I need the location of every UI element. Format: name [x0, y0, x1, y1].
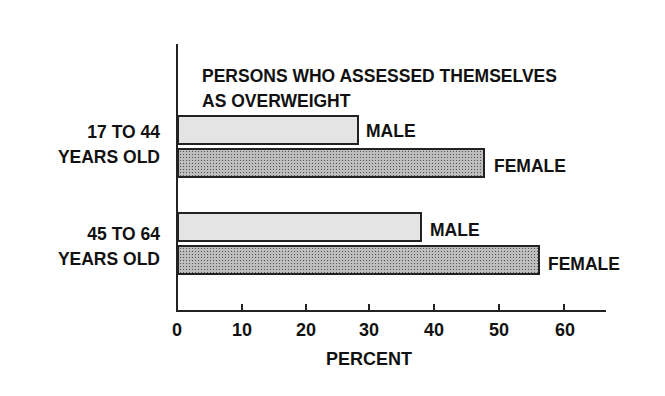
x-tick-label: 40 — [414, 320, 454, 341]
category-label-45-64: 45 TO 64 YEARS OLD — [0, 222, 160, 272]
chart-title: PERSONS WHO ASSESSED THEMSELVES AS OVERW… — [202, 64, 557, 114]
bar-label-female: FEMALE — [548, 254, 620, 275]
x-tick-label: 50 — [479, 320, 519, 341]
bar-label-male: MALE — [366, 121, 416, 142]
x-tick — [368, 304, 370, 310]
category-line: YEARS OLD — [0, 145, 160, 170]
bar-male-45-64 — [177, 212, 422, 242]
x-axis-label: PERCENT — [326, 349, 412, 370]
bar-label-female: FEMALE — [494, 156, 566, 177]
bar-male-17-44 — [177, 115, 359, 145]
x-tick-label: 60 — [545, 320, 585, 341]
x-tick-label: 30 — [349, 320, 389, 341]
x-tick — [305, 304, 307, 310]
title-line-1: PERSONS WHO ASSESSED THEMSELVES — [202, 64, 557, 89]
x-tick-label: 10 — [222, 320, 262, 341]
title-line-2: AS OVERWEIGHT — [202, 89, 557, 114]
x-axis — [176, 310, 606, 312]
bar-label-male: MALE — [430, 220, 480, 241]
category-line: YEARS OLD — [0, 247, 160, 272]
bar-female-17-44 — [177, 148, 485, 178]
x-tick-label: 20 — [286, 320, 326, 341]
x-tick — [241, 304, 243, 310]
x-tick — [563, 304, 565, 310]
category-label-17-44: 17 TO 44 YEARS OLD — [0, 120, 160, 170]
category-line: 17 TO 44 — [0, 120, 160, 145]
x-tick-label: 0 — [157, 320, 197, 341]
bar-female-45-64 — [177, 245, 540, 275]
x-tick — [433, 304, 435, 310]
x-tick — [498, 304, 500, 310]
category-line: 45 TO 64 — [0, 222, 160, 247]
